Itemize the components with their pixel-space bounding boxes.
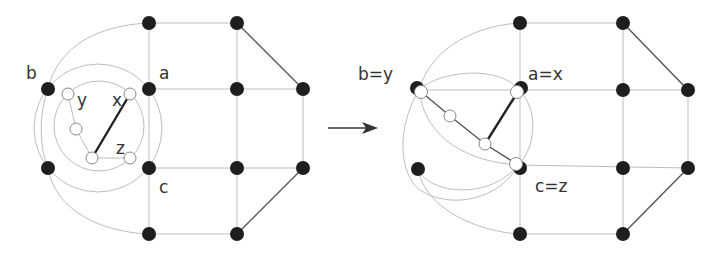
node: [70, 123, 82, 135]
node-c: [142, 161, 156, 175]
node: [513, 227, 527, 241]
left-graph: b a c y x z: [26, 16, 310, 241]
node: [411, 162, 425, 176]
node: [616, 227, 630, 241]
node: [230, 82, 244, 96]
node: [296, 82, 310, 96]
node: [479, 138, 491, 150]
node-x: [124, 88, 136, 100]
node: [616, 161, 630, 175]
node: [616, 16, 630, 30]
node: [681, 83, 695, 97]
node-b: [41, 82, 55, 96]
node-b-eq-y: [415, 86, 428, 99]
label-a: a: [159, 63, 169, 83]
node: [86, 152, 98, 164]
transform-arrow: [328, 122, 378, 134]
label-c-eq-z: c=z: [535, 176, 568, 196]
node: [444, 110, 456, 122]
node-a-eq-x: [511, 86, 524, 99]
node: [41, 161, 55, 175]
node: [296, 161, 310, 175]
label-z: z: [116, 138, 125, 158]
label-b-eq-y: b=y: [358, 64, 393, 84]
node: [142, 16, 156, 30]
node: [513, 16, 527, 30]
label-y: y: [77, 90, 87, 110]
label-b: b: [26, 63, 37, 83]
node: [230, 16, 244, 30]
node: [616, 83, 630, 97]
node: [230, 161, 244, 175]
node-z: [124, 152, 136, 164]
node-y: [62, 88, 74, 100]
label-x: x: [112, 90, 122, 110]
node: [230, 227, 244, 241]
right-graph: b=y a=x c=z: [358, 16, 695, 241]
node: [681, 161, 695, 175]
node-a: [142, 82, 156, 96]
label-a-eq-x: a=x: [528, 64, 563, 84]
node: [142, 227, 156, 241]
graph-transformation-diagram: b a c y x z: [0, 0, 720, 254]
label-c: c: [159, 177, 168, 197]
node-c-eq-z: [510, 158, 523, 171]
